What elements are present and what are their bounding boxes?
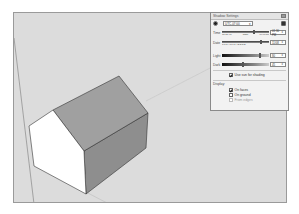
spinner-icon[interactable]: ⇕ — [281, 31, 284, 34]
divider — [213, 70, 286, 71]
use-sun-label: Use sun for shading — [235, 73, 265, 77]
dark-label: Dark — [213, 63, 222, 67]
green-axis-line — [14, 38, 34, 203]
time-row: Time 06:43 AM Noon 04:46 PM 01:30 PM ⇕ — [213, 30, 286, 35]
date-input[interactable]: 11/08 ⇕ — [270, 40, 286, 45]
shadow-settings-panel: Shadow Settings UTC-07:00 ▾ Time 06:43 A… — [210, 12, 289, 111]
timezone-value: UTC-07:00 — [225, 22, 240, 26]
time-scale-noon: Noon — [243, 33, 248, 36]
light-slider[interactable] — [222, 54, 269, 57]
display-label: Display: — [213, 82, 225, 86]
on-ground-label: On ground — [235, 93, 251, 97]
on-ground-row[interactable]: On ground — [229, 93, 286, 97]
light-row: Light 80 ⇕ — [213, 53, 286, 58]
light-value: 80 — [272, 54, 275, 58]
spinner-icon[interactable]: ⇕ — [281, 41, 284, 44]
dark-slider[interactable] — [222, 63, 269, 66]
on-faces-label: On faces — [235, 88, 249, 92]
from-edges-row[interactable]: From edges — [229, 98, 286, 102]
time-value: 01:30 PM — [272, 29, 281, 37]
use-sun-row[interactable]: Use sun for shading — [229, 73, 286, 77]
sun-icon — [213, 21, 218, 26]
dark-slider-thumb[interactable] — [242, 62, 244, 67]
time-input[interactable]: 01:30 PM ⇕ — [270, 30, 286, 35]
dark-value: 45 — [272, 63, 275, 67]
close-icon[interactable] — [281, 14, 286, 18]
date-value: 11/08 — [272, 41, 279, 45]
date-label: Date — [213, 41, 222, 45]
divider — [213, 80, 286, 81]
panel-titlebar[interactable]: Shadow Settings — [211, 13, 288, 20]
on-ground-checkbox[interactable] — [229, 93, 233, 97]
time-label: Time — [213, 31, 222, 35]
dark-row: Dark 45 ⇕ — [213, 62, 286, 67]
light-label: Light — [213, 54, 222, 58]
timezone-dropdown[interactable]: UTC-07:00 ▾ — [223, 21, 253, 26]
use-sun-checkbox[interactable] — [229, 73, 233, 77]
time-slider[interactable]: 06:43 AM Noon 04:46 PM — [222, 30, 269, 35]
chevron-down-icon: ▾ — [249, 22, 251, 26]
from-edges-label: From edges — [235, 98, 253, 102]
from-edges-checkbox[interactable] — [229, 98, 233, 102]
on-faces-row[interactable]: On faces — [229, 88, 286, 92]
light-slider-thumb[interactable] — [259, 53, 261, 58]
time-scale-end: 04:46 PM — [260, 33, 269, 36]
light-input[interactable]: 80 ⇕ — [270, 53, 286, 58]
time-scale-start: 06:43 AM — [222, 33, 231, 36]
panel-title: Shadow Settings — [213, 14, 281, 18]
spinner-icon[interactable]: ⇕ — [281, 63, 284, 66]
shadow-toggle-icon[interactable] — [281, 21, 286, 26]
on-faces-checkbox[interactable] — [229, 88, 233, 92]
dark-input[interactable]: 45 ⇕ — [270, 62, 286, 67]
date-row: Date J F M A M J J A S O N D 11/08 ⇕ — [213, 40, 286, 45]
date-scale: J F M A M J J A S O N D — [222, 43, 269, 46]
spinner-icon[interactable]: ⇕ — [281, 54, 284, 57]
date-slider[interactable]: J F M A M J J A S O N D — [222, 40, 269, 45]
